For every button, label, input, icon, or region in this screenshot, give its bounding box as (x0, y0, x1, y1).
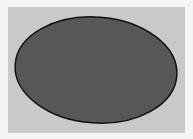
shape-layer (0, 0, 193, 139)
ellipse-shape (12, 11, 181, 128)
